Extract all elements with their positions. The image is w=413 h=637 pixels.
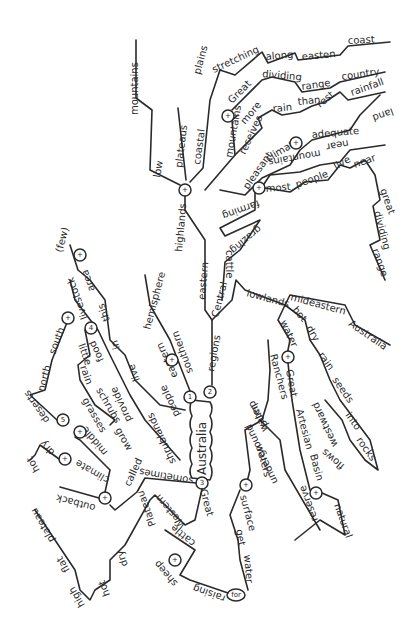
svg-text:+: + [65, 314, 71, 322]
svg-text:easten: easten [301, 48, 336, 62]
node-middle: + [74, 426, 86, 438]
svg-text:mountains: mountains [129, 62, 140, 115]
svg-text:south: south [47, 326, 67, 356]
svg-text:+: + [256, 184, 262, 192]
svg-text:north: north [35, 364, 53, 393]
svg-text:grow: grow [113, 426, 135, 453]
svg-text:for: for [231, 591, 241, 599]
svg-text:+: + [225, 112, 231, 120]
svg-text:dry: dry [304, 324, 322, 344]
svg-text:+: + [102, 494, 108, 502]
svg-text:along: along [265, 49, 294, 62]
svg-text:highlands: highlands [173, 203, 188, 252]
svg-text:low: low [151, 160, 165, 179]
svg-text:into: into [343, 410, 363, 432]
svg-text:rain: rain [272, 101, 292, 114]
svg-text:natural: natural [332, 502, 355, 539]
svg-text:live: live [332, 153, 353, 171]
node-highlands: + [179, 184, 191, 196]
svg-text:+: + [172, 556, 178, 564]
svg-text:1: 1 [188, 393, 192, 401]
svg-text:near: near [352, 151, 378, 169]
svg-text:near: near [324, 138, 349, 153]
node-water: + [282, 351, 294, 363]
svg-text:2: 2 [208, 388, 212, 396]
svg-text:4: 4 [89, 324, 94, 332]
svg-text:+: + [169, 356, 175, 364]
svg-text:plateaus: plateaus [173, 124, 189, 168]
svg-text:area: area [79, 268, 97, 293]
svg-text:this: this [95, 302, 112, 323]
svg-text:people: people [158, 383, 182, 418]
node-south: + [62, 312, 74, 324]
node-hotdry: + [59, 453, 71, 465]
svg-text:rest: rest [314, 89, 336, 110]
svg-text:(few): (few) [53, 226, 70, 254]
svg-text:+: + [285, 353, 291, 361]
svg-text:3: 3 [200, 479, 204, 487]
svg-text:high: high [66, 585, 86, 609]
svg-text:+: + [293, 139, 299, 147]
svg-text:+: + [62, 455, 68, 463]
node-cattle: + [169, 554, 181, 566]
svg-text:5: 5 [61, 416, 65, 424]
mind-map: Australia 1 2 3 regions eastern highland… [0, 0, 413, 637]
svg-text:hot: hot [96, 579, 112, 598]
svg-text:live: live [126, 363, 142, 383]
svg-text:climate: climate [73, 458, 111, 486]
node-1: 1 [184, 391, 196, 403]
node-5: 5 [57, 414, 69, 426]
svg-text:eastern: eastern [196, 262, 210, 301]
node-2: 2 [204, 386, 216, 398]
node-waters: + [240, 479, 252, 491]
svg-text:most: most [265, 181, 291, 194]
svg-text:sometimes: sometimes [138, 466, 194, 486]
node-outback: + [99, 492, 111, 504]
svg-text:land: land [371, 106, 395, 124]
svg-text:+: + [313, 489, 319, 497]
svg-text:Central: Central [209, 280, 229, 318]
svg-text:cattle: cattle [224, 250, 235, 278]
svg-text:dividing: dividing [372, 210, 393, 251]
svg-text:people: people [294, 168, 330, 190]
center-node: Australia [190, 400, 212, 480]
node-climate: + [290, 137, 302, 149]
svg-text:surface: surface [238, 494, 258, 533]
svg-text:flat: flat [54, 555, 72, 575]
svg-text:rain: rain [316, 350, 336, 372]
center-label: Australia [195, 422, 209, 475]
svg-text:+: + [182, 186, 188, 194]
svg-text:dividing: dividing [262, 68, 302, 82]
node-most: + [253, 182, 265, 194]
svg-text:water: water [278, 318, 300, 349]
svg-text:Great: Great [198, 488, 216, 518]
svg-text:coast: coast [348, 34, 375, 46]
svg-text:farming: farming [221, 198, 261, 222]
svg-text:regions: regions [205, 334, 222, 372]
node-area: + [74, 249, 86, 261]
svg-text:plateau: plateau [28, 506, 56, 544]
node-eastern: + [166, 354, 178, 366]
svg-text:+: + [243, 481, 249, 489]
svg-text:+: + [77, 428, 83, 436]
node-mountains: + [222, 110, 234, 122]
svg-text:dry: dry [114, 549, 130, 568]
svg-text:deserts: deserts [21, 388, 51, 425]
node-for: for [227, 589, 245, 601]
node-3: 3 [196, 477, 208, 489]
svg-text:rocks: rocks [354, 435, 378, 463]
svg-text:hot: hot [290, 304, 309, 324]
svg-text:range: range [370, 247, 390, 278]
svg-text:Australia: Australia [347, 318, 390, 352]
svg-text:adequate: adequate [311, 125, 359, 140]
svg-text:get: get [234, 528, 248, 546]
svg-text:water: water [242, 554, 256, 584]
svg-text:+: + [77, 251, 83, 259]
svg-text:hot: hot [24, 455, 42, 475]
node-4: 4 [85, 322, 97, 334]
svg-text:plains: plains [191, 44, 209, 75]
svg-text:Great: Great [226, 78, 254, 106]
